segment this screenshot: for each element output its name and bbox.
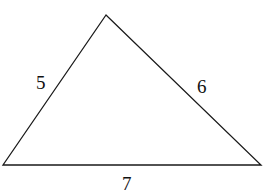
side-label-right: 6 bbox=[197, 76, 207, 97]
side-label-bottom: 7 bbox=[122, 173, 132, 192]
triangle-diagram: 5 6 7 bbox=[0, 0, 269, 192]
triangle-figure: 5 6 7 bbox=[0, 0, 269, 192]
side-label-left: 5 bbox=[36, 72, 46, 93]
